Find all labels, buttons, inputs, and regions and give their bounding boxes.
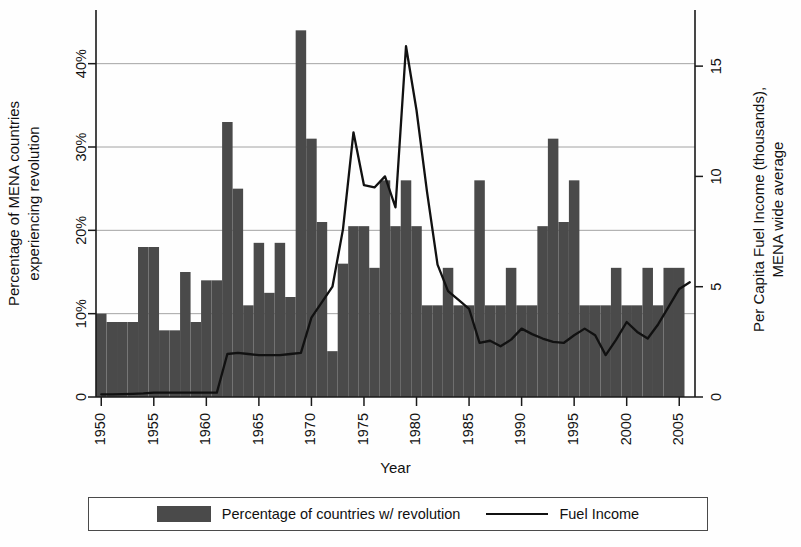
bar-1980	[411, 226, 422, 397]
bar-1996	[579, 305, 590, 397]
bar-1992	[537, 226, 548, 397]
bar-1959	[191, 322, 202, 397]
bar-2004	[663, 268, 674, 397]
left-tick-label: 40%	[73, 49, 89, 78]
bar-1987	[485, 305, 496, 397]
bar-1965	[254, 243, 265, 397]
bar-1960	[201, 280, 212, 397]
legend-item-line: Fuel Income	[486, 506, 639, 522]
bar-1956	[159, 330, 170, 397]
bar-1958	[180, 272, 191, 397]
bar-1964	[243, 305, 254, 397]
bar-1994	[558, 222, 569, 397]
legend-label-bar: Percentage of countries w/ revolution	[222, 506, 461, 522]
dual-axis-chart-canvas: 010%20%30%40%051015195019551960196519701…	[0, 0, 801, 490]
bar-1993	[548, 139, 559, 397]
x-tick-label: 2005	[670, 413, 686, 445]
bar-1983	[443, 268, 454, 397]
left-tick-label: 0	[73, 393, 89, 401]
bar-1981	[422, 305, 433, 397]
x-tick-label: 1965	[250, 413, 266, 445]
bar-1974	[348, 226, 359, 397]
x-tick-label: 2000	[618, 413, 634, 445]
x-tick-label: 1980	[407, 413, 423, 445]
bar-1988	[495, 305, 506, 397]
x-tick-label: 1960	[197, 413, 213, 445]
line-swatch-icon	[486, 513, 548, 515]
bar-1979	[401, 180, 412, 397]
x-tick-label: 1970	[302, 413, 318, 445]
chart-legend: Percentage of countries w/ revolution Fu…	[88, 497, 708, 531]
x-tick-label: 1990	[512, 413, 528, 445]
bar-1967	[275, 243, 286, 397]
x-tick-label: 1950	[92, 413, 108, 445]
bar-1951	[107, 322, 118, 397]
bar-1976	[369, 268, 380, 397]
x-tick-label: 1985	[460, 413, 476, 445]
left-tick-label: 30%	[73, 132, 89, 161]
bar-1991	[527, 305, 538, 397]
bar-1973	[338, 264, 349, 397]
bar-1952	[117, 322, 128, 397]
right-tick-label: 0	[708, 393, 724, 401]
bar-1986	[474, 180, 485, 397]
x-tick-label: 1955	[145, 413, 161, 445]
bar-1953	[128, 322, 139, 397]
y-axis-title: Percentage of MENA countriesexperiencing…	[5, 101, 42, 306]
bar-2001	[632, 305, 643, 397]
bar-1957	[170, 330, 181, 397]
bar-1968	[285, 297, 296, 397]
bar-1984	[453, 305, 464, 397]
chart-figure: 010%20%30%40%051015195019551960196519701…	[0, 0, 801, 547]
bar-1975	[359, 226, 370, 397]
x-tick-label: 1995	[565, 413, 581, 445]
right-tick-label: 15	[708, 58, 724, 74]
right-tick-label: 10	[708, 168, 724, 184]
left-tick-label: 10%	[73, 299, 89, 328]
right-tick-label: 5	[708, 283, 724, 291]
bar-1989	[506, 268, 517, 397]
bar-1970	[306, 139, 317, 397]
bar-1972	[327, 351, 338, 397]
legend-item-bar: Percentage of countries w/ revolution	[157, 506, 461, 522]
bar-1955	[149, 247, 160, 397]
bar-1997	[590, 305, 601, 397]
x-axis-title: Year	[380, 459, 410, 476]
bar-1966	[264, 293, 275, 397]
x-tick-label: 1975	[355, 413, 371, 445]
bar-1950	[96, 314, 107, 397]
bar-2000	[621, 305, 632, 397]
left-tick-label: 20%	[73, 216, 89, 245]
bar-1978	[390, 226, 401, 397]
bar-1954	[138, 247, 149, 397]
y2-axis-title: Per Capita Fuel Income (thousands),MENA …	[750, 87, 786, 332]
bar-1982	[432, 305, 443, 397]
legend-label-line: Fuel Income	[559, 506, 639, 522]
bar-1963	[233, 189, 244, 397]
bar-swatch-icon	[157, 506, 211, 522]
bar-1995	[569, 180, 580, 397]
bar-1990	[516, 305, 527, 397]
bar-1977	[380, 180, 391, 397]
